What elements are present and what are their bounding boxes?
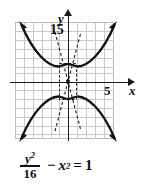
plot-area: y 15 5 x xyxy=(0,0,146,148)
x-axis-label: x xyxy=(129,84,136,97)
equals-operator: = xyxy=(73,157,82,174)
hyperbola-curves xyxy=(0,0,146,148)
fraction-numerator: y2 xyxy=(22,151,38,166)
numerator-exponent: 2 xyxy=(31,150,35,160)
origin-marker xyxy=(66,80,70,84)
curve-arrowhead-icon xyxy=(19,21,27,30)
y-axis-tick-label: 15 xyxy=(50,23,63,37)
curve-arrowhead-icon xyxy=(19,134,27,143)
hyperbola-upper-branch xyxy=(22,25,115,67)
fraction: y2 16 xyxy=(20,151,40,182)
x-axis-tick-label: 5 xyxy=(104,84,111,97)
figure-container: y 15 5 x y2 16 − x2 = 1 xyxy=(0,0,146,186)
curve-arrowhead-icon xyxy=(109,134,117,143)
x-term: x xyxy=(59,157,67,174)
equation-rhs: 1 xyxy=(85,157,93,174)
curve-arrowhead-icon xyxy=(109,21,117,30)
minus-operator: − xyxy=(47,157,56,174)
equation-caption: y2 16 − x2 = 1 xyxy=(0,146,146,186)
fraction-denominator: 16 xyxy=(21,167,40,181)
x-exponent: 2 xyxy=(66,161,70,171)
hyperbola-lower-branch xyxy=(22,97,115,139)
